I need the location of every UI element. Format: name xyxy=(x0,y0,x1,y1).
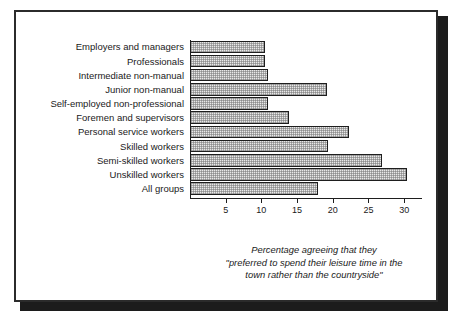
x-axis-tick-label: 20 xyxy=(328,205,338,215)
x-axis-tick-label: 5 xyxy=(223,205,228,215)
bar xyxy=(190,69,268,82)
caption-line-2: "preferred to spend their leisure time i… xyxy=(200,257,428,270)
bar xyxy=(190,41,265,54)
bar-row: Employers and managers xyxy=(24,40,430,54)
bar-track xyxy=(190,168,430,182)
bar-category-label: Professionals xyxy=(24,57,190,67)
bar-category-label: All groups xyxy=(24,184,190,194)
x-axis-tick xyxy=(404,198,405,203)
bar xyxy=(190,97,268,110)
bar-category-label: Employers and managers xyxy=(24,42,190,52)
bar-row: Unskilled workers xyxy=(24,168,430,182)
x-axis-tick xyxy=(333,198,334,203)
x-axis-tick xyxy=(226,198,227,203)
bar-track xyxy=(190,125,430,139)
bar-track xyxy=(190,154,430,168)
bar xyxy=(190,168,407,181)
bar xyxy=(190,182,318,195)
bar-track xyxy=(190,97,430,111)
bar-category-label: Semi-skilled workers xyxy=(24,156,190,166)
bar-category-label: Self-employed non-professional xyxy=(24,99,190,109)
bar-category-label: Personal service workers xyxy=(24,127,190,137)
x-axis: 51015202530 xyxy=(190,198,422,232)
bar-track xyxy=(190,40,430,54)
bar-category-label: Unskilled workers xyxy=(24,170,190,180)
bar xyxy=(190,83,327,96)
bar-track xyxy=(190,139,430,153)
bar-category-label: Junior non-manual xyxy=(24,85,190,95)
bar-track xyxy=(190,54,430,68)
bar-track xyxy=(190,83,430,97)
x-axis-tick xyxy=(368,198,369,203)
bar-row: Self-employed non-professional xyxy=(24,97,430,111)
bar-row: Junior non-manual xyxy=(24,83,430,97)
bar-category-label: Intermediate non-manual xyxy=(24,71,190,81)
bar-chart: Employers and managersProfessionalsInter… xyxy=(16,12,436,300)
x-axis-tick-label: 25 xyxy=(363,205,373,215)
bar-track xyxy=(190,111,430,125)
bar-category-label: Foremen and supervisors xyxy=(24,113,190,123)
x-axis-tick-label: 15 xyxy=(292,205,302,215)
bar-category-label: Skilled workers xyxy=(24,142,190,152)
bar xyxy=(190,55,265,68)
caption-line-1: Percentage agreeing that they xyxy=(200,244,428,257)
bar xyxy=(190,154,382,167)
bar-rows: Employers and managersProfessionalsInter… xyxy=(24,40,430,198)
x-axis-tick-label: 30 xyxy=(399,205,409,215)
bar-row: Professionals xyxy=(24,54,430,68)
figure-page: Employers and managersProfessionalsInter… xyxy=(0,0,452,321)
figure-frame: Employers and managersProfessionalsInter… xyxy=(14,10,438,302)
chart-caption: Percentage agreeing that they "preferred… xyxy=(200,244,428,282)
bar xyxy=(190,126,349,139)
x-axis-tick xyxy=(297,198,298,203)
bar-row: Semi-skilled workers xyxy=(24,154,430,168)
bar-track xyxy=(190,182,430,196)
x-axis-tick-label: 10 xyxy=(256,205,266,215)
x-axis-tick xyxy=(261,198,262,203)
bar xyxy=(190,111,289,124)
bar-row: Intermediate non-manual xyxy=(24,68,430,82)
bar-row: Skilled workers xyxy=(24,139,430,153)
bar-row: All groups xyxy=(24,182,430,196)
bar xyxy=(190,140,328,153)
bar-track xyxy=(190,68,430,82)
caption-line-3: town rather than the countryside" xyxy=(200,269,428,282)
bar-row: Foremen and supervisors xyxy=(24,111,430,125)
bar-row: Personal service workers xyxy=(24,125,430,139)
